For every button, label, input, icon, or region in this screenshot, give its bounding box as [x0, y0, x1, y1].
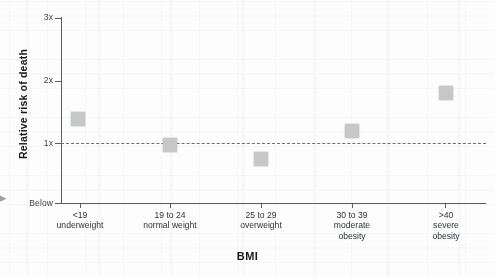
reference-line-1x [61, 143, 486, 144]
x-tick-severe-obesity [445, 203, 446, 208]
x-category-moderate-obesity-group2: obesity [300, 231, 404, 241]
y-tick-3x [55, 18, 61, 19]
x-tick-moderate-obesity [352, 203, 353, 208]
x-category-moderate-obesity: 30 to 39 moderate obesity [300, 210, 404, 241]
x-category-severe-obesity-group: severe [394, 220, 495, 230]
data-point-underweight [71, 112, 85, 126]
data-point-normal-weight [163, 138, 177, 152]
x-axis-title: BMI [0, 250, 495, 262]
x-category-moderate-obesity-range: 30 to 39 [336, 210, 367, 220]
x-category-severe-obesity: >40 severe obesity [394, 210, 495, 241]
x-tick-normal-weight [170, 203, 171, 208]
y-tick-below [55, 203, 61, 204]
relative-risk-bmi-chart: 3x 2x 1x Below <19 underweight 19 to 24 … [0, 0, 495, 277]
data-point-moderate-obesity [345, 124, 359, 138]
chevron-right-icon: ▸ [0, 190, 14, 206]
x-tick-overweight [261, 203, 262, 208]
x-tick-underweight [80, 203, 81, 208]
x-category-severe-obesity-range: >40 [439, 210, 454, 220]
x-category-underweight-range: <19 [73, 210, 88, 220]
x-category-severe-obesity-group2: obesity [394, 231, 495, 241]
data-point-severe-obesity [439, 86, 453, 100]
x-category-underweight: <19 underweight [28, 210, 132, 231]
x-category-underweight-group: underweight [28, 220, 132, 230]
x-category-normal-weight-group: normal weight [118, 220, 222, 230]
data-point-overweight [254, 152, 268, 166]
x-category-normal-weight-range: 19 to 24 [154, 210, 185, 220]
y-axis-title: Relative risk of death [17, 29, 29, 179]
x-category-overweight-group: overweight [209, 220, 313, 230]
x-axis-line [61, 203, 486, 204]
x-category-overweight-range: 25 to 29 [245, 210, 276, 220]
x-category-moderate-obesity-group: moderate [300, 220, 404, 230]
x-category-overweight: 25 to 29 overweight [209, 210, 313, 231]
y-tick-label-3x: 3x [0, 12, 53, 22]
y-tick-2x [55, 81, 61, 82]
y-axis-line [61, 17, 62, 204]
x-category-normal-weight: 19 to 24 normal weight [118, 210, 222, 231]
